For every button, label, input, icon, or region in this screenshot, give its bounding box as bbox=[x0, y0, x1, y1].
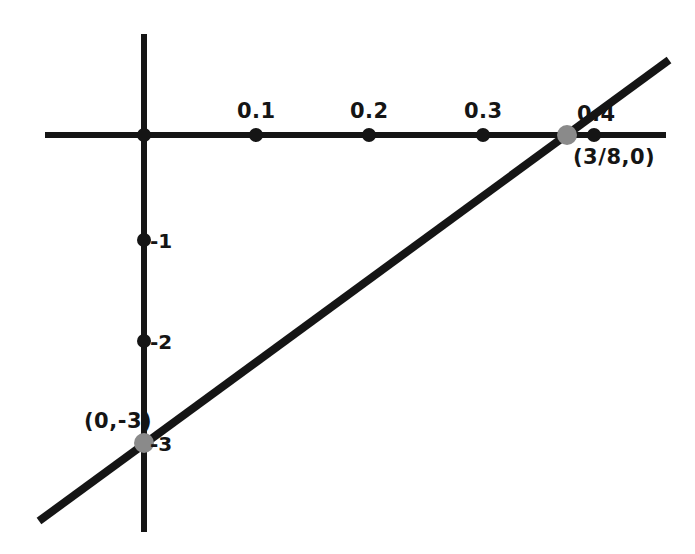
y-tick-point-minus-2 bbox=[137, 334, 151, 348]
x-tick-point-0-1 bbox=[249, 128, 263, 142]
y-tick-label-minus-3: -3 bbox=[150, 434, 172, 454]
x-tick-point-0-4 bbox=[587, 128, 601, 142]
x-tick-point-0-3 bbox=[476, 128, 490, 142]
x-tick-label-0-1: 0.1 bbox=[237, 101, 276, 122]
x-tick-label-0-2: 0.2 bbox=[350, 101, 389, 122]
x-intercept-label: (3/8,0) bbox=[573, 147, 655, 168]
coordinate-plane bbox=[0, 0, 695, 554]
x-tick-label-0-3: 0.3 bbox=[464, 101, 503, 122]
y-intercept-label: (0,-3) bbox=[84, 411, 152, 432]
graph-figure: 0.4 0.1 0.2 0.3 -1 -2 -3 (3/8,0) (0,-3) bbox=[0, 0, 695, 554]
y-tick-label-minus-2: -2 bbox=[150, 332, 172, 352]
y-tick-point-minus-1 bbox=[137, 233, 151, 247]
x-intercept-point bbox=[557, 125, 577, 145]
origin-point bbox=[137, 128, 151, 142]
y-tick-label-minus-1: -1 bbox=[150, 231, 172, 251]
x-tick-point-0-2 bbox=[362, 128, 376, 142]
